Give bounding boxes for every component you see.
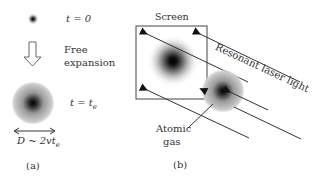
atomic-gas-cloud [202, 70, 244, 112]
final-time-sub: e [93, 103, 97, 111]
expansion-label: expansion [64, 58, 115, 68]
free-label: Free [64, 45, 88, 55]
diagram-canvas [0, 0, 315, 179]
expansion-arrow-icon [24, 42, 41, 66]
diameter-label: D ~ 2vte [17, 136, 60, 149]
initial-cloud [27, 13, 39, 25]
initial-time-label: t = 0 [66, 14, 91, 24]
caption-b: (b) [173, 160, 187, 170]
screen-label: Screen [155, 12, 189, 22]
screen-image-cloud [147, 35, 199, 87]
gas-pointer-line [188, 104, 213, 128]
expanded-cloud [12, 82, 54, 124]
atomic-label: Atomic [156, 124, 191, 134]
gas-label: gas [163, 137, 181, 147]
diameter-sub: e [56, 141, 60, 149]
laser-ray [234, 107, 301, 139]
final-time-label: t = te [70, 98, 97, 111]
caption-a: (a) [26, 161, 40, 171]
diameter-text: D ~ 2vt [17, 135, 56, 146]
final-time-text: t = t [70, 97, 93, 108]
